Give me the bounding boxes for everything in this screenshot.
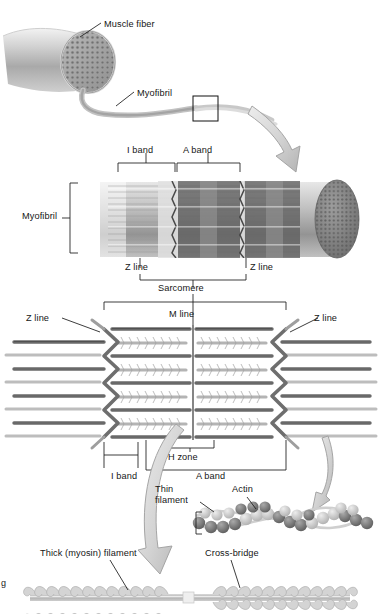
label-z-line-left: Z line <box>125 262 148 273</box>
label-m-line: M line <box>169 309 194 320</box>
cropped-credit-text: g <box>1 578 6 588</box>
figure-canvas: Muscle fiber Myofibril Myofibril I band … <box>0 0 381 614</box>
label-cross-bridge: Cross-bridge <box>205 548 259 559</box>
label-z-line-right: Z line <box>250 262 273 273</box>
myofibril-illustration <box>96 178 363 262</box>
actin-beads <box>193 501 373 533</box>
sarcomere-illustration <box>6 320 376 448</box>
label-muscle-fiber: Muscle fiber <box>104 19 155 30</box>
label-i-band-bottom: I band <box>111 471 137 482</box>
arrow-sarcomere-to-actin <box>312 436 333 512</box>
label-thick-myosin-filament: Thick (myosin) filament <box>40 548 137 559</box>
label-a-band-top: A band <box>183 145 212 156</box>
label-i-band-top: I band <box>127 145 153 156</box>
label-z-line-right-2: Z line <box>314 313 337 324</box>
thick-filament-illustration <box>24 587 358 614</box>
diagram-svg <box>0 0 381 614</box>
label-actin: Actin <box>232 484 253 495</box>
actin-filament-illustration <box>193 501 373 534</box>
thick-filaments <box>6 337 376 436</box>
label-thin-filament: Thin filament <box>155 484 207 505</box>
label-myofibril-bracket: Myofibril <box>22 211 57 222</box>
label-h-zone: H zone <box>168 452 198 463</box>
muscle-fiber-illustration <box>3 28 276 124</box>
label-a-band-bottom: A band <box>196 471 225 482</box>
label-sarcomere: Sarcomere <box>158 283 204 294</box>
arrow-fiber-to-myofibril <box>248 106 300 172</box>
label-myofibril-callout: Myofibril <box>137 88 172 99</box>
label-z-line-left-2: Z line <box>26 313 49 324</box>
